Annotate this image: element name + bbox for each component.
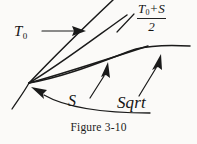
arrowhead-origin [31, 87, 47, 99]
figure-3-10: T0 T0+S 2 S Sqrt Figure 3-10 [0, 0, 197, 144]
figure-caption: Figure 3-10 [0, 122, 197, 134]
label-s: S [68, 93, 76, 109]
arrowhead-sqrt [152, 54, 162, 70]
fraction-numerator-subscript: 0 [145, 8, 149, 17]
fraction-numerator-second: S [158, 1, 165, 16]
leader-line-s [90, 76, 104, 98]
fraction-numerator-operator: + [150, 1, 158, 16]
label-sqrt: Sqrt [117, 94, 146, 111]
arrowhead-s [101, 62, 110, 78]
curve-average [29, 15, 127, 83]
fraction-numerator: T0+S [137, 2, 166, 18]
label-t0-subscript: 0 [23, 31, 28, 41]
label-t0-base: T [14, 23, 22, 39]
leader-line-sqrt [139, 68, 156, 96]
origin-tail-curve [12, 83, 29, 109]
label-t0: T0 [14, 24, 27, 41]
fraction-denominator: 2 [137, 20, 166, 33]
label-average-fraction: T0+S 2 [137, 2, 166, 33]
